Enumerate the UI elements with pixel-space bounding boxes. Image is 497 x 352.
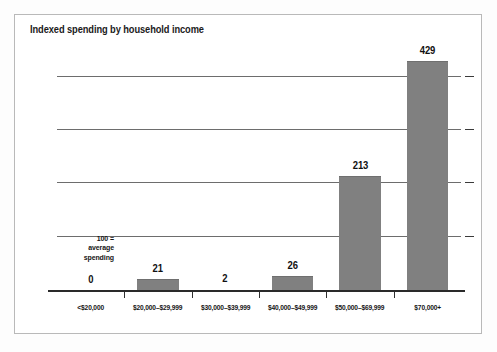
bar [272, 276, 313, 290]
bar-value-label: 213 [352, 159, 367, 171]
bar-value-label: 2 [223, 272, 228, 284]
bar [137, 279, 178, 290]
x-axis-labels: <$20,000$20,000–$29,999$30,000–$39,999$4… [57, 303, 461, 312]
x-axis-label: <$20,000 [60, 303, 122, 312]
x-tick [394, 292, 395, 298]
x-tick [259, 292, 260, 298]
bar-group: 21 [124, 50, 191, 290]
bar [407, 61, 448, 290]
x-axis-label: $30,000–$39,999 [194, 303, 256, 312]
plot-area: 100 =averagespending 021226213429 [57, 50, 461, 292]
bar-group: 0 [57, 50, 124, 290]
x-axis-line [48, 290, 465, 292]
bar-group: 2 [192, 50, 259, 290]
bar-group: 429 [394, 50, 461, 290]
x-tick [326, 292, 327, 298]
bar-value-label: 26 [288, 259, 298, 271]
y-tick-100 [465, 236, 474, 237]
y-tick-300 [465, 129, 474, 130]
x-axis-label: $70,000+ [396, 303, 458, 312]
chart-figure: Indexed spending by household income 100… [0, 0, 497, 352]
x-tick [192, 292, 193, 298]
x-axis-label: $50,000–$69,999 [329, 303, 391, 312]
y-tick-200 [465, 182, 474, 183]
x-tick [124, 292, 125, 298]
bar-series: 021226213429 [57, 50, 461, 290]
bar-value-label: 0 [88, 273, 93, 285]
bar-group: 26 [259, 50, 326, 290]
chart-title: Indexed spending by household income [30, 24, 204, 35]
bar-group: 213 [326, 50, 393, 290]
bar [339, 176, 380, 290]
bar-value-label: 21 [153, 262, 163, 274]
x-axis-label: $40,000–$49,999 [262, 303, 324, 312]
x-axis-label: $20,000–$29,999 [127, 303, 189, 312]
y-tick-400 [465, 76, 474, 77]
bar-value-label: 429 [420, 44, 435, 56]
x-axis-ticks [57, 292, 461, 298]
